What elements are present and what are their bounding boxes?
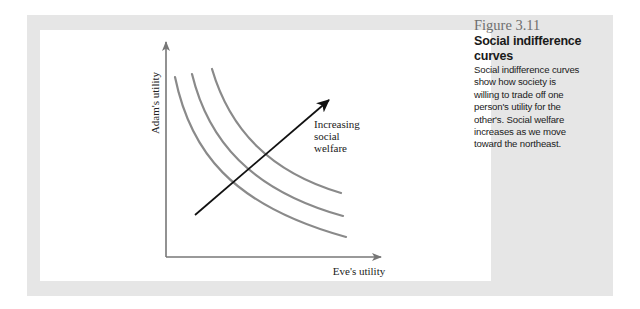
- figure-title: Social indifference curves: [474, 34, 582, 64]
- figure-description: Social indifference curves show how soci…: [474, 64, 582, 151]
- axes: [166, 42, 381, 257]
- welfare-arrow: [195, 100, 329, 215]
- arrow-label-line-2: social: [314, 130, 340, 142]
- x-axis-label: Eve's utility: [333, 265, 386, 277]
- arrow-label-line-1: Increasing: [314, 118, 360, 130]
- arrow-annotation: Increasing social welfare: [314, 118, 360, 154]
- y-axis-label: Adam's utility: [149, 71, 161, 134]
- arrow-label-line-3: welfare: [314, 142, 347, 154]
- figure-caption: Figure 3.11 Social indifference curves S…: [474, 17, 582, 151]
- figure-number: Figure 3.11: [474, 17, 582, 33]
